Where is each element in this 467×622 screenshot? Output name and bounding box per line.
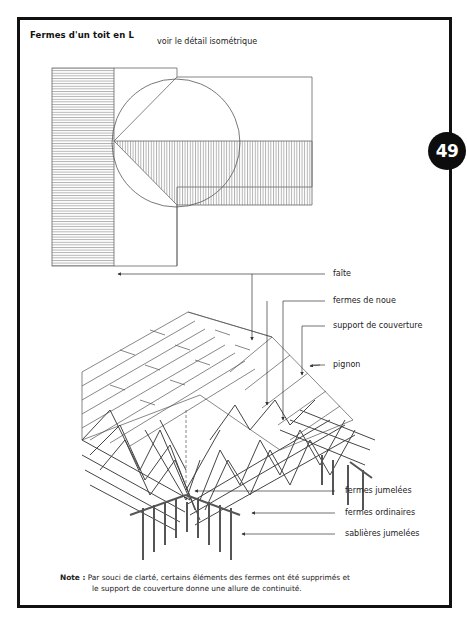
note-line-1: Par souci de clarté, certains éléments d…: [88, 573, 350, 582]
callout-fermes-jumelees: fermes jumelées: [345, 486, 412, 495]
callout-pignon: pignon: [333, 360, 360, 369]
callout-support-de-couverture: support de couverture: [333, 321, 422, 330]
callout-faite: faîte: [333, 269, 351, 278]
sill-plates: [130, 462, 372, 515]
callout-sablieres-jumelees: sablières jumelées: [345, 529, 420, 538]
note-line-2: le support de couverture donne une allur…: [60, 584, 405, 595]
support-posts: [143, 455, 363, 560]
note-prefix: Note :: [60, 573, 85, 582]
callout-fermes-de-noue: fermes de noue: [333, 296, 396, 305]
plan-view: [52, 68, 312, 266]
footnote: Note : Par souci de clarté, certains élé…: [60, 573, 405, 594]
callout-fermes-ordinaires: fermes ordinaires: [345, 508, 415, 517]
